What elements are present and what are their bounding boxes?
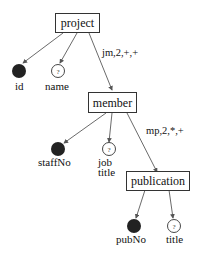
- edge-project-id: [23, 33, 63, 63]
- staffNo-key-icon: [51, 142, 65, 156]
- label-title: title: [166, 234, 183, 245]
- label-pubNo: pubNo: [116, 234, 146, 245]
- edge-publication-pubNo: [136, 190, 145, 218]
- label-title-line2: title: [98, 167, 115, 178]
- edge-member-publication: [127, 113, 157, 172]
- node-project: project: [55, 13, 100, 33]
- name-optional-glyph: ?: [56, 68, 59, 76]
- node-member: member: [88, 92, 137, 113]
- label-staffNo: staffNo: [38, 157, 71, 168]
- edge-project-member: [89, 33, 112, 90]
- edge-project-name: [60, 33, 77, 63]
- edge-label-mp: mp,2,*,+: [146, 126, 184, 137]
- edge-publication-title: [169, 190, 173, 218]
- id-key-icon: [12, 64, 26, 78]
- label-name: name: [45, 81, 69, 92]
- jobtitle-optional-glyph: ?: [107, 146, 110, 154]
- node-publication: publication: [126, 171, 190, 191]
- label-id: id: [15, 81, 24, 92]
- edge-member-jobtitle: [109, 113, 112, 142]
- title-optional-glyph: ?: [172, 223, 175, 231]
- edge-member-staffNo: [64, 113, 106, 143]
- edge-label-jm: jm,2,+,+: [102, 48, 138, 59]
- pubNo-key-icon: [127, 219, 141, 233]
